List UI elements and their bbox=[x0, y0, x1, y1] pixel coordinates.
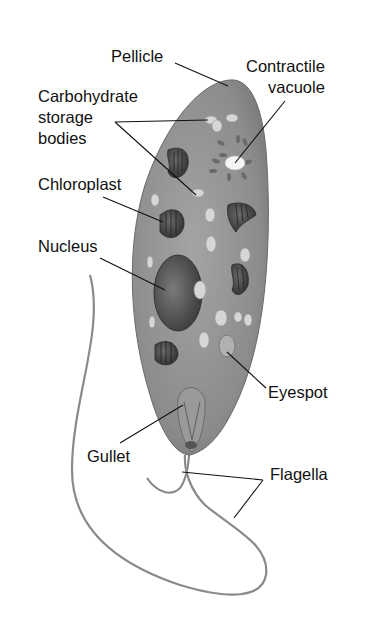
label-pellicle: Pellicle bbox=[111, 46, 163, 67]
label-eyespot: Eyespot bbox=[268, 382, 328, 403]
label-nucleus: Nucleus bbox=[38, 236, 98, 257]
label-chloroplast: Chloroplast bbox=[38, 174, 121, 195]
label-carbohydrate-storage-bodies: Carbohydrate storage bodies bbox=[38, 86, 138, 149]
label-contractile-vacuole: Contractile vacuole bbox=[246, 56, 325, 98]
eyespot bbox=[219, 335, 235, 357]
label-gullet: Gullet bbox=[87, 446, 130, 467]
flagella-leader-2 bbox=[234, 480, 263, 518]
label-flagella: Flagella bbox=[270, 464, 328, 485]
short-flagellum bbox=[147, 455, 189, 493]
pellicle-leader bbox=[175, 63, 228, 86]
flagella-leader-1 bbox=[182, 472, 263, 480]
